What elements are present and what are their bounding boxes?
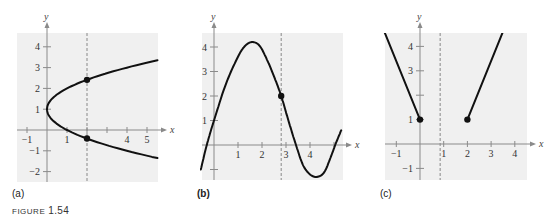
- y-tick-label: 4: [202, 42, 207, 53]
- y-axis-label: y: [416, 11, 422, 22]
- y-tick-label: 3: [202, 66, 207, 77]
- data-point: [278, 93, 284, 99]
- x-tick-label: 3: [284, 149, 289, 160]
- y-tick-label: 1: [408, 114, 413, 125]
- x-tick-label: 5: [145, 134, 150, 145]
- x-axis-arrow-icon: [530, 142, 536, 147]
- plot-area: [202, 33, 343, 180]
- y-axis-label: y: [43, 11, 49, 22]
- y-tick-label: −1: [402, 163, 413, 174]
- data-point: [84, 135, 90, 141]
- x-tick-label: 4: [125, 134, 130, 145]
- x-tick-label: −1: [391, 148, 402, 159]
- plot-area: [385, 33, 527, 180]
- x-tick-label: −1: [22, 134, 33, 145]
- y-tick-label: 2: [202, 91, 207, 102]
- panel-label: (a): [12, 188, 24, 199]
- y-axis-arrow-icon: [45, 22, 50, 28]
- caption-prefix: FIGURE: [12, 207, 45, 216]
- y-tick-label: 2: [35, 83, 40, 94]
- x-axis-arrow-icon: [346, 143, 352, 148]
- data-point: [417, 116, 423, 122]
- x-tick-label: 2: [465, 148, 470, 159]
- panel-b: xy12341234(b): [197, 11, 360, 199]
- figure-1-54: xy−1145−2−11234(a) xy12341234(b) xy−1123…: [0, 0, 554, 205]
- y-tick-label: −1: [29, 145, 40, 156]
- x-axis-label: x: [538, 138, 544, 149]
- x-tick-label: 3: [489, 148, 494, 159]
- y-tick-label: 3: [35, 62, 40, 73]
- y-axis-arrow-icon: [212, 22, 217, 28]
- data-point: [84, 77, 90, 83]
- x-tick-label: 1: [441, 148, 446, 159]
- x-axis-label: x: [354, 139, 360, 150]
- data-point: [464, 116, 470, 122]
- y-tick-label: 3: [408, 65, 413, 76]
- x-axis-label: x: [169, 124, 175, 135]
- x-tick-label: 1: [65, 134, 70, 145]
- x-tick-label: 2: [260, 149, 265, 160]
- panel-label: (c): [380, 188, 392, 199]
- y-tick-label: 1: [35, 104, 40, 115]
- y-axis-arrow-icon: [418, 22, 423, 28]
- caption-number: 1.54: [48, 205, 69, 216]
- x-tick-label: 4: [512, 148, 517, 159]
- panel-c: xy−11234−1134(c): [380, 11, 544, 199]
- y-tick-label: −2: [29, 166, 40, 177]
- x-axis-arrow-icon: [161, 128, 167, 133]
- y-axis-label: y: [210, 11, 216, 22]
- y-tick-label: 4: [35, 41, 40, 52]
- panel-label: (b): [197, 188, 210, 199]
- x-tick-label: 1: [236, 149, 241, 160]
- y-tick-label: 1: [202, 115, 207, 126]
- y-tick-label: 4: [408, 41, 413, 52]
- panel-a: xy−1145−2−11234(a): [12, 11, 175, 199]
- x-tick-label: 4: [308, 149, 313, 160]
- figure-caption: FIGURE 1.54: [12, 205, 69, 216]
